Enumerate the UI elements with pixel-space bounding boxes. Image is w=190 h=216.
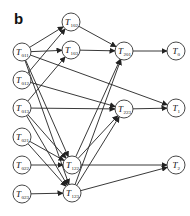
- node-T021: T021: [13, 128, 31, 146]
- node-T2: T2: [167, 156, 185, 174]
- node-T011: T011: [13, 43, 31, 61]
- node-subscript: 103: [71, 51, 79, 56]
- edge-T011-to-T1: [30, 55, 167, 105]
- node-T1: T1: [167, 99, 185, 117]
- node-T103: T103: [62, 41, 80, 59]
- node-T012: T012: [13, 71, 31, 89]
- node-T022: T022: [13, 156, 31, 174]
- edge-T123-to-T223: [77, 117, 120, 186]
- node-subscript: 021: [22, 138, 30, 143]
- directed-graph-diagram: T011T012T013T021T022T023T102T103T122T123…: [0, 0, 190, 216]
- node-subscript: 201: [124, 52, 132, 57]
- edge-T012-to-T223: [31, 82, 116, 106]
- node-subscript: 012: [22, 81, 30, 86]
- node-subscript: 123: [72, 194, 80, 199]
- edge-T123-to-T201: [75, 59, 121, 184]
- node-T122: T122: [63, 156, 81, 174]
- edge-T223-to-T1: [133, 108, 167, 109]
- edge-T103-to-T201: [80, 50, 115, 51]
- edge-layer: [25, 26, 168, 193]
- edge-T023-to-T123: [31, 193, 63, 194]
- node-T023: T023: [13, 185, 31, 203]
- node-T102: T102: [62, 13, 80, 31]
- edge-T012-to-T102: [28, 29, 65, 73]
- node-subscript: 013: [22, 109, 30, 114]
- edge-T102-to-T201: [79, 26, 116, 46]
- node-subscript: 102: [71, 23, 79, 28]
- node-subscript: 122: [72, 166, 80, 171]
- node-subscript: 011: [22, 53, 30, 58]
- edge-T013-to-T103: [28, 57, 65, 101]
- edge-T123-to-T2: [81, 167, 168, 190]
- node-T0: T0: [167, 42, 185, 60]
- node-subscript: 223: [124, 110, 132, 115]
- node-T123: T123: [63, 184, 81, 202]
- node-T201: T201: [115, 42, 133, 60]
- node-T013: T013: [13, 99, 31, 117]
- node-subscript: 023: [22, 195, 30, 200]
- node-subscript: 022: [22, 166, 30, 171]
- node-T223: T223: [115, 100, 133, 118]
